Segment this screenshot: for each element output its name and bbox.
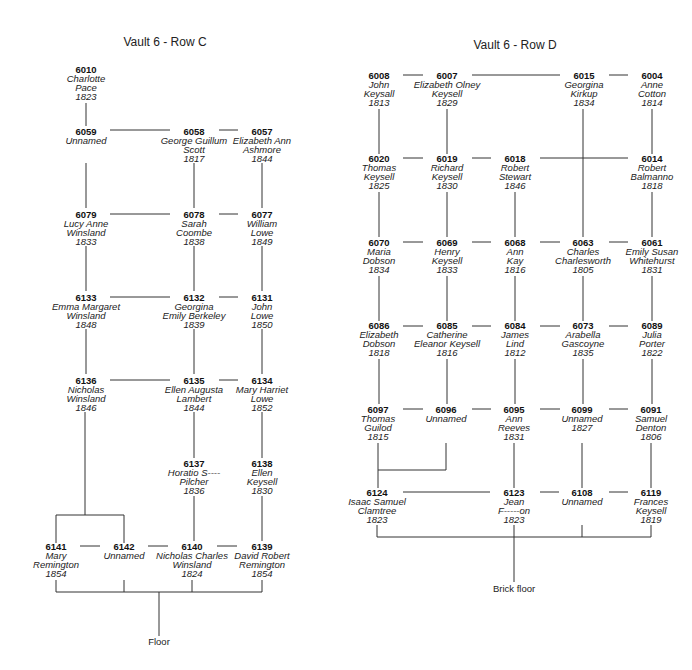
coffin-6089: 6089 Julia Porter 1822 bbox=[639, 321, 665, 357]
coffin-6085: 6085 Catherine Eleanor Keysell 1816 bbox=[414, 321, 480, 357]
coffin-year: 1833 bbox=[64, 237, 109, 246]
coffin-6015: 6015 Georgina Kirkup 1834 bbox=[564, 71, 603, 107]
coffin-year: 1806 bbox=[635, 432, 667, 441]
coffin-year: 1823 bbox=[498, 515, 530, 524]
coffin-year: 1823 bbox=[67, 92, 106, 101]
coffin-6020: 6020 Thomas Keysell 1825 bbox=[362, 154, 396, 190]
coffin-year: 1836 bbox=[168, 486, 220, 495]
coffin-name: Unnamed bbox=[103, 551, 144, 560]
coffin-6014: 6014 Robert Balmanno 1818 bbox=[631, 154, 674, 190]
coffin-6108: 6108 Unnamed bbox=[561, 488, 602, 506]
coffin-year: 1846 bbox=[499, 181, 531, 190]
coffin-6119: 6119 Frances Keysell 1819 bbox=[634, 488, 668, 524]
coffin-year: 1854 bbox=[33, 569, 79, 578]
coffin-6099: 6099 Unnamed 1827 bbox=[561, 405, 602, 432]
coffin-year: 1829 bbox=[414, 98, 481, 107]
coffin-6134: 6134 Mary Harriet Lowe 1852 bbox=[236, 376, 288, 412]
coffin-6136: 6136 Nicholas Winsland 1846 bbox=[67, 376, 106, 412]
coffin-year: 1827 bbox=[561, 423, 602, 432]
coffin-year: 1852 bbox=[236, 403, 288, 412]
coffin-year: 1813 bbox=[364, 98, 395, 107]
coffin-6073: 6073 Arabella Gascoyne 1835 bbox=[562, 321, 605, 357]
coffin-6070: 6070 Maria Dobson 1834 bbox=[363, 238, 396, 274]
coffin-year: 1825 bbox=[362, 181, 396, 190]
coffin-6097: 6097 Thomas Guilod 1815 bbox=[361, 405, 395, 441]
coffin-year: 1824 bbox=[156, 569, 228, 578]
coffin-6132: 6132 Georgina Emily Berkeley 1839 bbox=[163, 293, 226, 329]
coffin-6141: 6141 Mary Remington 1854 bbox=[33, 542, 79, 578]
coffin-6068: 6068 Ann Kay 1816 bbox=[504, 238, 525, 274]
coffin-year: 1815 bbox=[361, 432, 395, 441]
coffin-6142: 6142 Unnamed bbox=[103, 542, 144, 560]
coffin-year: 1850 bbox=[251, 320, 274, 329]
coffin-year: 1812 bbox=[501, 348, 529, 357]
coffin-year: 1816 bbox=[504, 265, 525, 274]
coffin-6018: 6018 Robert Stewart 1846 bbox=[499, 154, 531, 190]
coffin-year: 1818 bbox=[359, 348, 398, 357]
coffin-year: 1834 bbox=[564, 98, 603, 107]
coffin-6059: 6059 Unnamed bbox=[65, 127, 106, 145]
coffin-6077: 6077 William Lowe 1849 bbox=[247, 210, 278, 246]
coffin-6139: 6139 David Robert Remington 1854 bbox=[234, 542, 289, 578]
coffin-6057: 6057 Elizabeth Ann Ashmore 1844 bbox=[233, 127, 291, 163]
coffin-year: 1835 bbox=[562, 348, 605, 357]
coffin-year: 1834 bbox=[363, 265, 396, 274]
coffin-year: 1830 bbox=[431, 181, 464, 190]
coffin-year: 1839 bbox=[163, 320, 226, 329]
brick-floor-label: Brick floor bbox=[493, 583, 535, 594]
coffin-year: 1854 bbox=[234, 569, 289, 578]
coffin-year: 1838 bbox=[176, 237, 212, 246]
coffin-year: 1830 bbox=[247, 486, 278, 495]
coffin-6123: 6123 Jean F-----on 1823 bbox=[498, 488, 530, 524]
coffin-year: 1818 bbox=[631, 181, 674, 190]
floor-label: Floor bbox=[148, 636, 170, 647]
coffin-year: 1848 bbox=[52, 320, 120, 329]
coffin-year: 1819 bbox=[634, 515, 668, 524]
coffin-6138: 6138 Ellen Keysell 1830 bbox=[247, 459, 278, 495]
coffin-year: 1805 bbox=[555, 265, 611, 274]
coffin-year: 1816 bbox=[414, 348, 480, 357]
coffin-6095: 6095 Ann Reeves 1831 bbox=[498, 405, 530, 441]
row-d-title: Vault 6 - Row D bbox=[473, 38, 556, 52]
coffin-6058: 6058 George Guillum Scott 1817 bbox=[161, 127, 228, 163]
coffin-year: 1844 bbox=[165, 403, 223, 412]
coffin-6061: 6061 Emily Susan Whitehurst 1831 bbox=[626, 238, 679, 274]
coffin-year: 1814 bbox=[638, 98, 666, 107]
coffin-year: 1833 bbox=[432, 265, 463, 274]
coffin-name: Unnamed bbox=[65, 136, 106, 145]
coffin-6124: 6124 Isaac Samuel Clamtree 1823 bbox=[348, 488, 406, 524]
coffin-year: 1846 bbox=[67, 403, 106, 412]
coffin-6137: 6137 Horatio S---- Pilcher 1836 bbox=[168, 459, 220, 495]
coffin-year: 1817 bbox=[161, 154, 228, 163]
coffin-6010: 6010 Charlotte Pace 1823 bbox=[67, 65, 106, 101]
coffin-year: 1822 bbox=[639, 348, 665, 357]
row-c-title: Vault 6 - Row C bbox=[123, 35, 206, 49]
coffin-year: 1844 bbox=[233, 154, 291, 163]
coffin-name: Unnamed bbox=[425, 414, 466, 423]
coffin-6008: 6008 John Keysall 1813 bbox=[364, 71, 395, 107]
coffin-6069: 6069 Henry Keysell 1833 bbox=[432, 238, 463, 274]
coffin-6063: 6063 Charles Charlesworth 1805 bbox=[555, 238, 611, 274]
coffin-year: 1823 bbox=[348, 515, 406, 524]
coffin-6086: 6086 Elizabeth Dobson 1818 bbox=[359, 321, 398, 357]
coffin-6019: 6019 Richard Keysell 1830 bbox=[431, 154, 464, 190]
coffin-6140: 6140 Nicholas Charles Winsland 1824 bbox=[156, 542, 228, 578]
coffin-6078: 6078 Sarah Coombe 1838 bbox=[176, 210, 212, 246]
coffin-6007: 6007 Elizabeth Olney Keysell 1829 bbox=[414, 71, 481, 107]
coffin-6131: 6131 John Lowe 1850 bbox=[251, 293, 274, 329]
coffin-year: 1831 bbox=[626, 265, 679, 274]
coffin-name: Unnamed bbox=[561, 497, 602, 506]
coffin-6091: 6091 Samuel Denton 1806 bbox=[635, 405, 667, 441]
coffin-year: 1849 bbox=[247, 237, 278, 246]
coffin-6096: 6096 Unnamed bbox=[425, 405, 466, 423]
coffin-6133: 6133 Emma Margaret Winsland 1848 bbox=[52, 293, 120, 329]
coffin-6135: 6135 Ellen Augusta Lambert 1844 bbox=[165, 376, 223, 412]
coffin-year: 1831 bbox=[498, 432, 530, 441]
coffin-6004: 6004 Anne Cotton 1814 bbox=[638, 71, 666, 107]
coffin-6084: 6084 James Lind 1812 bbox=[501, 321, 529, 357]
coffin-6079: 6079 Lucy Anne Winsland 1833 bbox=[64, 210, 109, 246]
